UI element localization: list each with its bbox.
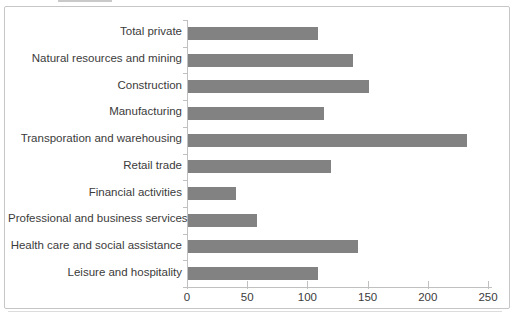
- x-axis-tick: [488, 281, 489, 289]
- x-tick-label: 200: [410, 291, 446, 303]
- category-label: Leisure and hospitality: [8, 266, 182, 282]
- y-axis-tick: [183, 20, 187, 21]
- category-label: Total private: [8, 25, 182, 41]
- x-tick-label: 250: [470, 291, 506, 303]
- x-axis-tick: [368, 281, 369, 289]
- category-label: Health care and social assistance: [8, 239, 182, 255]
- y-axis-tick: [183, 260, 187, 261]
- category-label: Financial activities: [8, 186, 182, 202]
- category-label: Retail trade: [8, 159, 182, 175]
- bar: [188, 187, 236, 200]
- y-axis-tick: [183, 180, 187, 181]
- y-axis-tick: [183, 207, 187, 208]
- x-axis-tick: [307, 281, 308, 289]
- category-label: Natural resources and mining: [8, 52, 182, 68]
- x-axis-tick: [428, 281, 429, 289]
- bar: [188, 134, 467, 147]
- bar: [188, 240, 358, 253]
- screenshot-edge-artifact: [58, 0, 112, 2]
- category-label: Manufacturing: [8, 105, 182, 121]
- x-axis-tick: [187, 281, 188, 289]
- y-axis-tick: [183, 127, 187, 128]
- y-axis-tick: [183, 47, 187, 48]
- bar: [188, 27, 318, 40]
- y-axis-tick: [183, 154, 187, 155]
- bar: [188, 160, 331, 173]
- category-label: Transporation and warehousing: [8, 132, 182, 148]
- x-tick-label: 50: [229, 291, 265, 303]
- y-axis-tick: [183, 100, 187, 101]
- bar-chart: 050100150200250Total privateNatural reso…: [0, 0, 516, 317]
- y-axis-tick: [183, 73, 187, 74]
- x-axis-tick: [247, 281, 248, 289]
- x-tick-label: 150: [350, 291, 386, 303]
- bar: [188, 267, 318, 280]
- x-tick-label: 0: [169, 291, 205, 303]
- chart-frame-shadow: [8, 311, 502, 312]
- bar: [188, 54, 353, 67]
- bar: [188, 80, 369, 93]
- y-axis-tick: [183, 234, 187, 235]
- bar: [188, 107, 324, 120]
- x-tick-label: 100: [289, 291, 325, 303]
- category-label: Construction: [8, 79, 182, 95]
- category-label: Professional and business services: [8, 212, 182, 228]
- bar: [188, 214, 257, 227]
- x-axis-line: [187, 287, 492, 288]
